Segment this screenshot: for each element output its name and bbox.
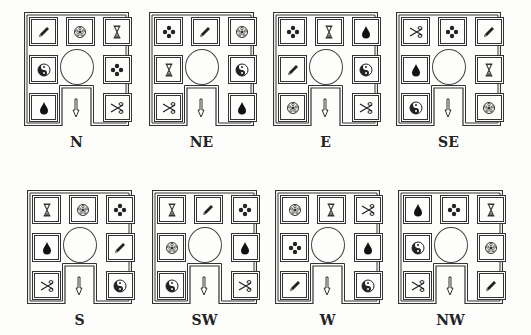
panel-sw: SW — [152, 190, 257, 304]
flower-icon — [75, 202, 91, 218]
flower-icon — [285, 100, 301, 116]
cell-top-center — [66, 17, 95, 46]
yinyang-icon — [36, 62, 52, 78]
scissors-icon — [161, 100, 177, 116]
cell-top-left — [280, 195, 309, 224]
drop-icon — [410, 202, 426, 218]
cell-bottom-left — [403, 271, 432, 300]
panel-nw: NW — [398, 190, 503, 304]
hourglass-icon — [483, 202, 499, 218]
diamond4-icon — [161, 24, 177, 40]
cell-top-center — [191, 17, 220, 46]
cell-top-left — [401, 17, 430, 46]
center-circle — [311, 227, 345, 263]
drop-icon — [36, 100, 52, 116]
arrow-down-icon — [196, 98, 206, 118]
cell-middle-left — [32, 233, 61, 262]
center-circle — [309, 49, 343, 85]
direction-label: W — [275, 312, 380, 328]
center-circle — [60, 49, 94, 85]
cell-top-right — [106, 195, 135, 224]
flower-icon — [483, 240, 499, 256]
cell-top-right — [228, 17, 257, 46]
pencil-icon — [481, 24, 497, 40]
cell-top-left — [157, 195, 186, 224]
cell-top-right — [352, 17, 381, 46]
cell-bottom-left — [157, 271, 186, 300]
direction-label: E — [273, 134, 378, 150]
flower-icon — [481, 100, 497, 116]
cell-middle-right — [354, 233, 383, 262]
cell-middle-left — [154, 55, 183, 84]
cell-top-right — [477, 195, 506, 224]
drop-icon — [408, 62, 424, 78]
cell-middle-left — [29, 55, 58, 84]
pencil-icon — [285, 62, 301, 78]
drop-icon — [358, 24, 374, 40]
cell-middle-left — [278, 55, 307, 84]
cell-top-center — [440, 195, 469, 224]
diamond4-icon — [112, 202, 128, 218]
scissors-icon — [408, 24, 424, 40]
cell-top-left — [154, 17, 183, 46]
arrow-down-icon — [445, 276, 455, 296]
diamond4-icon — [287, 240, 303, 256]
cell-top-right — [475, 17, 504, 46]
cell-top-center — [69, 195, 98, 224]
drop-icon — [237, 240, 253, 256]
cell-bottom-right — [231, 271, 260, 300]
cell-middle-right — [477, 233, 506, 262]
cell-middle-right — [106, 233, 135, 262]
center-circle — [432, 49, 466, 85]
cell-middle-right — [231, 233, 260, 262]
pencil-icon — [200, 202, 216, 218]
cell-middle-right — [103, 55, 132, 84]
hourglass-icon — [164, 202, 180, 218]
diamond4-icon — [446, 202, 462, 218]
arrow-down-icon — [71, 98, 81, 118]
cell-top-center — [438, 17, 467, 46]
cell-top-left — [32, 195, 61, 224]
center-circle — [185, 49, 219, 85]
center-circle — [188, 227, 222, 263]
drop-icon — [234, 100, 250, 116]
hourglass-icon — [161, 62, 177, 78]
hourglass-icon — [481, 62, 497, 78]
scissors-icon — [39, 278, 55, 294]
yinyang-icon — [164, 278, 180, 294]
cell-middle-right — [475, 55, 504, 84]
cell-bottom-right — [354, 271, 383, 300]
hourglass-icon — [109, 24, 125, 40]
cell-bottom-right — [477, 271, 506, 300]
cell-middle-left — [157, 233, 186, 262]
yinyang-icon — [408, 100, 424, 116]
cell-middle-left — [280, 233, 309, 262]
cell-bottom-left — [32, 271, 61, 300]
yinyang-icon — [234, 62, 250, 78]
cell-top-left — [403, 195, 432, 224]
cell-bottom-right — [475, 93, 504, 122]
diamond4-icon — [237, 202, 253, 218]
pencil-icon — [197, 24, 213, 40]
yinyang-icon — [358, 62, 374, 78]
flower-icon — [72, 24, 88, 40]
diamond4-icon — [109, 62, 125, 78]
diamond4-icon — [285, 24, 301, 40]
direction-label: N — [24, 134, 129, 150]
panel-ne: NE — [149, 12, 254, 126]
panel-s: S — [27, 190, 132, 304]
pencil-icon — [287, 278, 303, 294]
cell-top-left — [29, 17, 58, 46]
cell-top-right — [354, 195, 383, 224]
diamond4-icon — [444, 24, 460, 40]
panel-w: W — [275, 190, 380, 304]
panel-n: N — [24, 12, 129, 126]
cell-bottom-left — [154, 93, 183, 122]
cell-bottom-left — [29, 93, 58, 122]
pencil-icon — [112, 240, 128, 256]
hourglass-icon — [321, 24, 337, 40]
direction-label: NW — [398, 312, 503, 328]
direction-label: NE — [149, 134, 254, 150]
drop-icon — [39, 240, 55, 256]
pencil-icon — [483, 278, 499, 294]
